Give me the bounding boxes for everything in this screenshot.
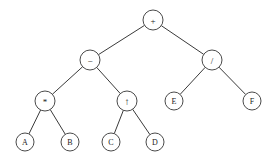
node-label: + — [150, 16, 155, 26]
tree-edge — [161, 26, 203, 55]
node-label: B — [67, 138, 72, 147]
node-label: C — [108, 138, 113, 147]
tree-edge — [133, 109, 150, 134]
node-label: − — [87, 56, 92, 66]
tree-node-exponent[interactable]: ↑ — [117, 91, 137, 111]
tree-node-D[interactable]: D — [146, 133, 164, 151]
node-label: D — [152, 138, 158, 147]
node-label: A — [22, 138, 28, 147]
tree-edge — [180, 67, 205, 94]
tree-edge — [219, 67, 246, 94]
tree-node-C[interactable]: C — [102, 133, 120, 151]
expression-tree-canvas: +−/*↑EFABCD — [0, 0, 278, 161]
node-label: * — [43, 97, 48, 107]
tree-node-B[interactable]: B — [61, 133, 79, 151]
tree-edge — [50, 110, 65, 135]
tree-edge — [29, 110, 41, 134]
tree-edge — [98, 25, 144, 54]
tree-node-plus[interactable]: + — [143, 10, 163, 30]
tree-node-A[interactable]: A — [16, 133, 34, 151]
node-label: ↑ — [125, 96, 130, 107]
expression-tree-figure: +−/*↑EFABCD — [0, 0, 278, 161]
node-layer: +−/*↑EFABCD — [16, 10, 261, 151]
tree-edge — [52, 67, 82, 95]
tree-node-E[interactable]: E — [165, 92, 183, 110]
tree-node-divide[interactable]: / — [202, 50, 222, 70]
tree-node-F[interactable]: F — [243, 92, 261, 110]
tree-edge — [97, 67, 121, 93]
tree-edge — [114, 110, 123, 133]
node-label: E — [172, 97, 177, 106]
node-label: F — [250, 97, 255, 106]
edge-layer — [29, 25, 246, 134]
tree-node-times[interactable]: * — [35, 91, 55, 111]
tree-node-minus[interactable]: − — [80, 50, 100, 70]
